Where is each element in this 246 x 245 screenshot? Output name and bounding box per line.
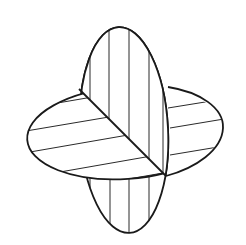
diagram-canvas: [0, 0, 246, 245]
horizontal-plane-right-outline: [166, 87, 223, 176]
intersecting-planes-figure: [0, 0, 246, 245]
